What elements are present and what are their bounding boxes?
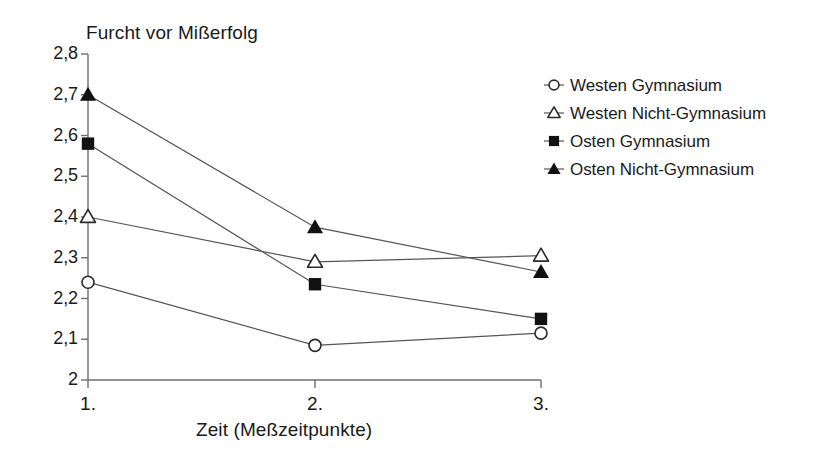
legend-item-label: Westen Gymnasium — [570, 76, 722, 96]
x-axis-tick-label: 2. — [285, 393, 345, 415]
y-axis-tick-label: 2 — [24, 369, 78, 390]
legend-markers — [544, 80, 564, 174]
y-axis-tick-label: 2,4 — [24, 206, 78, 227]
y-axis-tick-label: 2,7 — [24, 84, 78, 105]
y-axis-tick-label: 2,1 — [24, 328, 78, 349]
chart-figure: Furcht vor Mißerfolg 22,12,22,32,42,52,6… — [0, 0, 818, 470]
x-axis-tick-label: 1. — [58, 393, 118, 415]
y-axis-tick-label: 2,8 — [24, 43, 78, 64]
legend-item-label: Osten Nicht-Gymnasium — [570, 160, 754, 180]
y-axis-tick-label: 2,6 — [24, 125, 78, 146]
chart-series-layer — [80, 87, 549, 352]
x-axis-title: Zeit (Meßzeitpunkte) — [196, 419, 372, 441]
chart-plot-area — [0, 0, 818, 470]
y-axis-tick-label: 2,5 — [24, 165, 78, 186]
y-axis-tick-label: 2,2 — [24, 288, 78, 309]
legend-item-label: Westen Nicht-Gymnasium — [570, 104, 766, 124]
x-axis-tick-label: 3. — [511, 393, 571, 415]
chart-axes — [81, 54, 541, 388]
series-1 — [81, 210, 549, 268]
y-axis-tick-label: 2,3 — [24, 247, 78, 268]
chart-title: Furcht vor Mißerfolg — [86, 22, 258, 44]
legend-item-label: Osten Gymnasium — [570, 132, 710, 152]
